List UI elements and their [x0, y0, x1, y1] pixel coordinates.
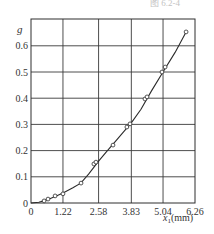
data-point-marker: [46, 197, 50, 201]
data-point-marker: [61, 192, 65, 196]
data-point-marker: [125, 125, 129, 129]
x-tick-label: 0: [29, 206, 34, 217]
plot-frame: [31, 19, 195, 203]
y-tick-label: 0.2: [16, 145, 29, 156]
grid-lines: [31, 19, 195, 203]
x-axis-label: x1(mm): [162, 212, 193, 225]
x-tick-label: 1.22: [54, 206, 72, 217]
y-tick-label: 0.1: [16, 171, 29, 182]
data-point-marker: [111, 143, 115, 147]
data-point-marker: [53, 194, 57, 198]
y-tick-label: 0.6: [16, 40, 29, 51]
data-point-marker: [145, 95, 149, 99]
data-point-marker: [94, 160, 98, 164]
data-point-marker: [128, 122, 132, 126]
plot-area: 00.10.20.30.40.50.6 01.222.583.835.046.2…: [0, 0, 214, 234]
y-tick-label: 0: [23, 198, 28, 209]
data-point-marker: [160, 70, 164, 74]
y-tick-labels: 00.10.20.30.40.50.6: [16, 40, 29, 208]
x-tick-label: 3.83: [123, 206, 141, 217]
x-axis-label-unit: (mm): [171, 212, 193, 224]
y-tick-label: 0.4: [16, 93, 29, 104]
data-point-marker: [163, 65, 167, 69]
data-point-marker: [79, 181, 83, 185]
y-tick-label: 0.5: [16, 67, 29, 78]
y-axis-label: g: [17, 23, 23, 35]
x-tick-label: 2.58: [90, 206, 108, 217]
data-point-marker: [42, 199, 46, 203]
chart: 图 6.2-4 00.10.20.30.40.50.6 01.222.583.8…: [0, 0, 214, 234]
figure-caption-fragment: 图 6.2-4: [150, 0, 180, 9]
y-tick-label: 0.3: [16, 119, 29, 130]
data-point-marker: [184, 30, 188, 34]
